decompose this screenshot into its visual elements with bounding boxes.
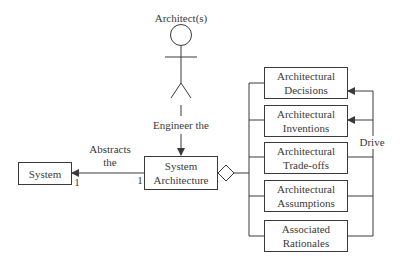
multiplicity-architecture: 1 — [136, 174, 144, 187]
part-line2: Trade-offs — [283, 158, 329, 172]
part-line1: Architectural — [277, 182, 335, 196]
system-box: System — [18, 162, 72, 185]
system-architecture-box: System Architecture — [144, 156, 218, 190]
composition-bus — [249, 83, 264, 236]
abstracts-relation-label-line1: Abstracts — [85, 143, 135, 156]
architectural-inventions-box: Architectural Inventions — [264, 105, 348, 137]
part-line1: Architectural — [277, 144, 335, 158]
part-line1: Associated — [282, 222, 330, 236]
architectural-tradeoffs-box: Architectural Trade-offs — [264, 142, 348, 174]
drive-relation-label: Drive — [352, 136, 392, 149]
part-line2: Inventions — [283, 121, 329, 135]
actor-label: Architect(s) — [150, 12, 212, 25]
drive-bus — [347, 91, 373, 236]
part-line2: Assumptions — [277, 196, 334, 210]
part-line1: Architectural — [277, 107, 335, 121]
actor-stick-figure-icon — [165, 25, 197, 99]
engineer-relation-label: Engineer the — [146, 119, 216, 132]
part-line2: Rationales — [283, 236, 329, 250]
architectural-decisions-box: Architectural Decisions — [264, 67, 348, 99]
system-label: System — [29, 167, 61, 181]
part-line2: Decisions — [284, 83, 327, 97]
multiplicity-system: 1 — [73, 176, 81, 189]
part-line1: Architectural — [277, 69, 335, 83]
associated-rationales-box: Associated Rationales — [264, 220, 348, 252]
aggregation-diamond-icon — [218, 165, 234, 181]
system-architecture-line2: Architecture — [154, 173, 209, 187]
system-architecture-line1: System — [165, 159, 197, 173]
architectural-assumptions-box: Architectural Assumptions — [264, 180, 348, 212]
abstracts-relation-label-line2: the — [85, 156, 135, 169]
